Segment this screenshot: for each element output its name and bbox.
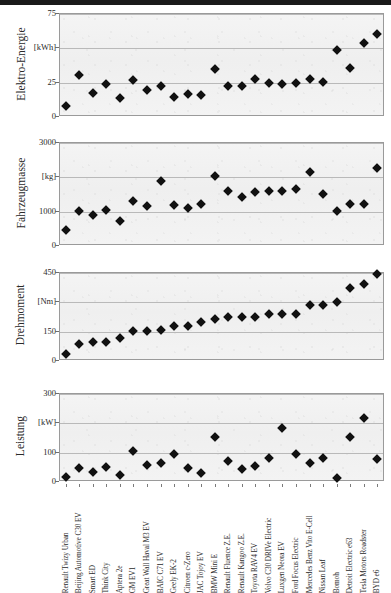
y-tick-label-fahrzeugmasse-2: [kg] [0, 172, 56, 181]
x-tick-mark [174, 484, 175, 487]
y-tick-mark [55, 452, 59, 453]
y-tick-label-drehmoment-3: 450 [0, 268, 56, 277]
y-tick-mark [55, 393, 59, 394]
y-tick-label-fahrzeugmasse-0: 0 [0, 241, 56, 250]
x-tick-mark [106, 484, 107, 487]
axis-title-drehmoment: Drehmoment [14, 251, 26, 379]
x-tick-label: Toyota RAV4 EV [251, 543, 258, 593]
x-tick-label: Beijing Automotive C30 EV [75, 512, 82, 593]
y-tick-mark [55, 142, 59, 143]
axis-title-leistung: Leistung [14, 372, 26, 500]
x-tick-mark [133, 484, 134, 487]
x-tick-mark [147, 484, 148, 487]
y-tick-label-fahrzeugmasse-1: 1000 [0, 206, 56, 215]
x-tick-mark [66, 484, 67, 487]
x-tick-label: Ford Focus Electric [292, 537, 299, 593]
x-tick-label: Great Wall Haval M3 EV [143, 521, 150, 593]
x-tick-mark [161, 484, 162, 487]
gridline [60, 453, 383, 454]
x-tick-label: Mercedes Benz Vito E-Cell [305, 515, 312, 593]
x-tick-mark [269, 484, 270, 487]
x-tick-label: Detroit Electric e63 [346, 537, 353, 593]
y-tick-label-drehmoment-0: 0 [0, 356, 56, 365]
y-tick-mark [55, 176, 59, 177]
x-axis-labels: Renault Twizy UrbanBeijing Automotive C3… [0, 484, 391, 593]
y-tick-label-leistung-2: [kW] [0, 418, 56, 427]
y-tick-mark [55, 301, 59, 302]
y-tick-label-elektro-energie-1: 25 [0, 77, 56, 86]
gridline [60, 177, 383, 178]
y-tick-label-leistung-1: 100 [0, 447, 56, 456]
y-tick-mark [55, 211, 59, 212]
x-tick-label: GM EV1 [129, 567, 136, 593]
gridline [60, 273, 383, 274]
y-tick-label-elektro-energie-2: [kWh] [0, 43, 56, 52]
x-tick-label: BAIC C71 EV [156, 551, 163, 593]
x-tick-mark [228, 484, 229, 487]
x-tick-label: JAC Tojoy EV [197, 551, 204, 593]
plot-area-drehmoment [59, 272, 384, 360]
y-tick-label-drehmoment-1: 150 [0, 326, 56, 335]
top-border-gap [0, 5, 391, 7]
y-tick-mark [55, 360, 59, 361]
chart-canvas: 025[kWh]75Elektro-Energie01000[kg]3000Fa… [0, 0, 391, 593]
gridline [60, 394, 383, 395]
plot-area-fahrzeugmasse [59, 142, 384, 245]
x-tick-mark [377, 484, 378, 487]
x-tick-label: Renault Kangoo Z.E. [238, 533, 245, 593]
x-tick-label: Volvo C30 DRIVe Electric [265, 518, 272, 593]
y-tick-mark [55, 245, 59, 246]
x-tick-label: Citroen c-Zero [183, 551, 190, 593]
gridline [60, 14, 383, 15]
x-tick-mark [310, 484, 311, 487]
x-tick-mark [215, 484, 216, 487]
x-tick-label: Tesla Motors Roadster [359, 529, 366, 593]
x-tick-mark [79, 484, 80, 487]
y-tick-mark [55, 82, 59, 83]
y-tick-mark [55, 481, 59, 482]
x-tick-mark [296, 484, 297, 487]
x-tick-label: BYD e6 [373, 569, 380, 593]
x-tick-label: Smart ED [89, 565, 96, 593]
x-tick-label: Nissan Leaf [319, 559, 326, 593]
x-tick-label: BMW Mini E [210, 554, 217, 593]
plot-area-elektro-energie [59, 13, 384, 116]
y-tick-mark [55, 116, 59, 117]
y-tick-label-elektro-energie-0: 0 [0, 112, 56, 121]
x-tick-mark [337, 484, 338, 487]
x-tick-label: Think City [102, 562, 109, 593]
x-tick-mark [120, 484, 121, 487]
y-tick-label-fahrzeugmasse-3: 3000 [0, 138, 56, 147]
x-tick-label: Renault Fluence Z.E. [224, 533, 231, 593]
x-tick-label: Luxgen Neora EV [278, 541, 285, 593]
y-tick-mark [55, 13, 59, 14]
y-tick-mark [55, 47, 59, 48]
y-tick-label-leistung-3: 300 [0, 389, 56, 398]
y-tick-mark [55, 331, 59, 332]
x-tick-mark [350, 484, 351, 487]
x-tick-mark [323, 484, 324, 487]
x-tick-mark [282, 484, 283, 487]
y-tick-label-elektro-energie-3: 75 [0, 9, 56, 18]
x-tick-label: Bomoh [332, 572, 339, 593]
x-tick-mark [255, 484, 256, 487]
x-tick-mark [242, 484, 243, 487]
axis-title-fahrzeugmasse: Fahrzeugmasse [14, 121, 26, 264]
y-tick-mark [55, 422, 59, 423]
gridline [60, 423, 383, 424]
x-tick-mark [201, 484, 202, 487]
y-tick-mark [55, 272, 59, 273]
axis-title-elektro-energie: Elektro-Energie [14, 0, 26, 135]
x-tick-label: Aptera 2e [116, 565, 123, 593]
x-tick-mark [188, 484, 189, 487]
gridline [60, 332, 383, 333]
x-tick-mark [364, 484, 365, 487]
y-tick-label-drehmoment-2: [Nm] [0, 297, 56, 306]
x-tick-label: Geely EK-2 [170, 559, 177, 593]
gridline [60, 143, 383, 144]
x-tick-mark [93, 484, 94, 487]
x-tick-label: Renault Twizy Urban [61, 532, 68, 593]
